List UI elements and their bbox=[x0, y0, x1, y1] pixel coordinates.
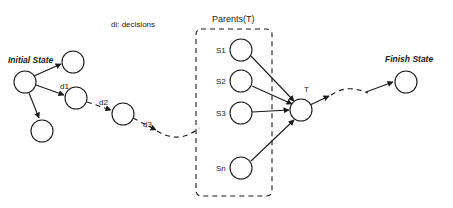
edge-label-d1: d1 bbox=[60, 82, 69, 91]
edge-t-to-finish-dashed bbox=[331, 89, 368, 95]
node-label-s2: S2 bbox=[216, 77, 226, 86]
edge-d3-dashed-curve bbox=[157, 128, 199, 137]
diagram-canvas: di: decisions Parents(T) Initial State F… bbox=[0, 0, 453, 208]
parents-group-label: Parents(T) bbox=[212, 14, 255, 24]
node-s3[interactable] bbox=[230, 102, 252, 124]
edge-t-outgoing-stub bbox=[310, 96, 329, 105]
node-sn[interactable] bbox=[230, 157, 252, 179]
node-d2[interactable] bbox=[112, 103, 134, 125]
node-branch-down[interactable] bbox=[31, 120, 53, 142]
edge-label-d2: d2 bbox=[99, 98, 108, 107]
edge-label-d3: d3 bbox=[143, 120, 152, 129]
node-label-s3: S3 bbox=[216, 109, 226, 118]
node-initial-state[interactable] bbox=[14, 71, 36, 93]
node-label-t: T bbox=[304, 85, 309, 94]
node-finish-state[interactable] bbox=[395, 71, 417, 93]
node-s2[interactable] bbox=[230, 70, 252, 92]
node-label-s1: S1 bbox=[216, 46, 226, 55]
node-s1[interactable] bbox=[230, 39, 252, 61]
edge-s3-to-t bbox=[252, 110, 289, 112]
node-branch-up[interactable] bbox=[62, 51, 84, 73]
edge-initial-to-branch-down bbox=[29, 93, 39, 118]
node-t[interactable] bbox=[290, 99, 312, 121]
state-transition-diagram: di: decisions Parents(T) Initial State F… bbox=[0, 0, 453, 208]
finish-state-label: Finish State bbox=[385, 54, 433, 64]
edge-initial-to-branch-up bbox=[34, 64, 61, 76]
edge-dashed-to-finish bbox=[366, 82, 393, 92]
node-label-sn: Sn bbox=[216, 164, 226, 173]
legend-decisions-label: di: decisions bbox=[111, 20, 155, 29]
initial-state-label: Initial State bbox=[8, 55, 54, 65]
